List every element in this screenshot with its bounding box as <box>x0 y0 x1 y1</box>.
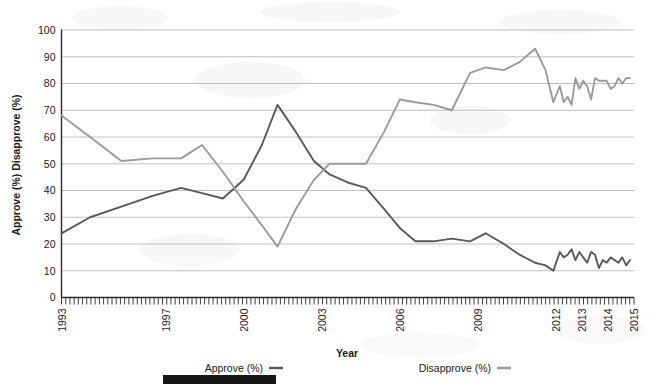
x-tick-label: 2014 <box>602 308 614 332</box>
y-tick-label: 0 <box>50 291 56 303</box>
redaction-bar <box>163 375 276 384</box>
y-tick-label: 50 <box>44 158 56 170</box>
y-tick-label: 80 <box>44 77 56 89</box>
x-tick-label: 2015 <box>628 308 640 332</box>
x-tick-label: 2009 <box>472 308 484 332</box>
line-chart-svg: 0102030405060708090100 19931997200020032… <box>0 0 661 388</box>
legend-label: Disapprove (%) <box>419 362 491 374</box>
x-axis-title: Year <box>336 347 358 359</box>
x-tick-label: 2000 <box>238 308 250 332</box>
y-tick-label: 60 <box>44 131 56 143</box>
legend-label: Approve (%) <box>205 362 263 374</box>
y-tick-label: 90 <box>44 51 56 63</box>
y-tick-label: 10 <box>44 265 56 277</box>
x-tick-label: 1997 <box>160 308 172 332</box>
y-axis-title: Approve (%) Disapprove (%) <box>10 94 22 235</box>
x-tick-label: 2012 <box>550 308 562 332</box>
y-tick-label: 100 <box>38 24 56 36</box>
x-tick-label: 2003 <box>316 308 328 332</box>
x-tick-label: 2013 <box>576 308 588 332</box>
x-tick-label: 1993 <box>56 308 68 332</box>
chart-figure: 0102030405060708090100 19931997200020032… <box>0 0 661 388</box>
y-tick-label: 70 <box>44 104 56 116</box>
y-tick-label: 40 <box>44 184 56 196</box>
x-tick-label: 2006 <box>394 308 406 332</box>
y-tick-label: 30 <box>44 211 56 223</box>
y-tick-label: 20 <box>44 238 56 250</box>
